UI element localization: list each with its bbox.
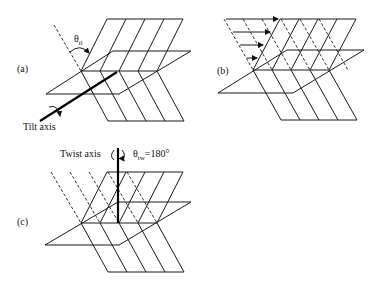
boundary-plane	[218, 50, 364, 93]
boundary-plane	[46, 51, 191, 94]
grain-boundary-diagram: θtl Tilt axis (a)	[0, 0, 378, 283]
upper-plate	[253, 19, 356, 70]
lower-plate	[81, 223, 184, 272]
twist-angle-label: θtw=180°	[133, 148, 169, 162]
panel-label-c: (c)	[17, 216, 28, 228]
panel-c: Twist axis θtw=180° (c)	[17, 148, 191, 272]
tilt-angle-arc	[70, 48, 89, 53]
tilt-axis-label: Tilt axis	[23, 121, 56, 132]
panel-a: θtl Tilt axis (a)	[17, 19, 191, 132]
lower-plate	[81, 71, 184, 121]
panel-b: (b)	[217, 19, 364, 120]
upper-plate	[81, 19, 183, 71]
tilt-angle-label: θtl	[74, 33, 83, 47]
tilt-axis	[40, 72, 117, 121]
panel-label-a: (a)	[17, 63, 28, 75]
twist-axis-label: Twist axis	[60, 148, 101, 159]
lower-plate	[253, 70, 357, 120]
panel-label-b: (b)	[217, 65, 229, 77]
